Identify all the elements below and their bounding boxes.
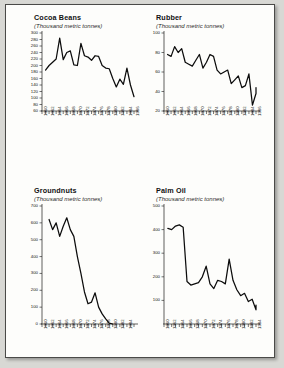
x-tick-label-cocoa-beans: 1974 bbox=[93, 106, 97, 116]
plot-area-groundnuts: 0100200300400500600700196019621964196619… bbox=[20, 206, 140, 328]
y-tick-label-cocoa-beans: 100 bbox=[20, 96, 38, 100]
x-tick-label-groundnuts: 1960 bbox=[44, 319, 48, 329]
x-tick-label-rubber: 1970 bbox=[201, 106, 205, 116]
x-tick-label-groundnuts: 1966 bbox=[65, 319, 69, 329]
data-series-cocoa-beans bbox=[46, 38, 134, 96]
y-tick-label-groundnuts: 100 bbox=[20, 305, 38, 309]
x-tick-label-groundnuts: 1962 bbox=[51, 319, 55, 329]
y-tick-label-rubber: 80 bbox=[142, 50, 160, 54]
x-tick-label-cocoa-beans: 1962 bbox=[51, 106, 55, 116]
y-tick-label-groundnuts: 200 bbox=[20, 288, 38, 292]
plot-area-palm-oil: 1002003004005001960196219641966196819701… bbox=[142, 206, 262, 328]
y-tick-label-groundnuts: 500 bbox=[20, 238, 38, 242]
y-tick-label-cocoa-beans: 300 bbox=[20, 31, 38, 35]
x-tick-label-rubber: 1966 bbox=[187, 106, 191, 116]
x-tick-label-rubber: 1960 bbox=[166, 106, 170, 116]
x-tick-label-palm-oil: 1974 bbox=[219, 319, 223, 329]
x-tick-label-cocoa-beans: 1960 bbox=[44, 106, 48, 116]
x-tick-label-palm-oil: 1964 bbox=[181, 319, 185, 329]
y-tick-label-cocoa-beans: 140 bbox=[20, 83, 38, 87]
y-tick-label-cocoa-beans: 80 bbox=[20, 102, 38, 106]
chart-canvas-rubber bbox=[142, 33, 262, 115]
x-tick-label-rubber: 1972 bbox=[208, 106, 212, 116]
x-tick-label-palm-oil: 1960 bbox=[166, 319, 170, 329]
chart-title-rubber: Rubber bbox=[156, 14, 264, 22]
x-tick-label-cocoa-beans: 1966 bbox=[65, 106, 69, 116]
x-tick-label-cocoa-beans: 1970 bbox=[79, 106, 83, 116]
y-tick-label-groundnuts: 400 bbox=[20, 254, 38, 258]
chart-panel-cocoa-beans: Cocoa Beans (Thousand metric tonnes) 608… bbox=[34, 14, 142, 162]
y-tick-label-palm-oil: 500 bbox=[142, 204, 160, 208]
x-tick-label-palm-oil: 1978 bbox=[235, 319, 239, 329]
x-tick-label-groundnuts: 1968 bbox=[72, 319, 76, 329]
y-tick-label-cocoa-beans: 260 bbox=[20, 44, 38, 48]
chart-canvas-palm-oil bbox=[142, 206, 262, 328]
x-tick-label-cocoa-beans: 1978 bbox=[107, 106, 111, 116]
y-tick-label-cocoa-beans: 280 bbox=[20, 37, 38, 41]
y-tick-label-cocoa-beans: 120 bbox=[20, 89, 38, 93]
x-tick-label-cocoa-beans: 1976 bbox=[100, 106, 104, 116]
x-tick-label-rubber: 1976 bbox=[222, 106, 226, 116]
x-tick-label-rubber: 1982 bbox=[243, 106, 247, 116]
x-tick-label-cocoa-beans: 1984 bbox=[129, 106, 133, 116]
x-tick-label-groundnuts: 1964 bbox=[58, 319, 62, 329]
chart-panel-palm-oil: Palm Oil (Thousand metric tonnes) 100200… bbox=[156, 187, 264, 352]
y-tick-label-groundnuts: 700 bbox=[20, 204, 38, 208]
x-tick-label-rubber: 1978 bbox=[229, 106, 233, 116]
x-tick-label-palm-oil: 1966 bbox=[189, 319, 193, 329]
x-tick-label-rubber: 1964 bbox=[180, 106, 184, 116]
x-tick-label-cocoa-beans: 1986 bbox=[136, 106, 140, 116]
chart-panel-rubber: Rubber (Thousand metric tonnes) 20406080… bbox=[156, 14, 264, 162]
y-tick-label-groundnuts: 300 bbox=[20, 271, 38, 275]
x-tick-label-rubber: 1974 bbox=[215, 106, 219, 116]
y-tick-label-cocoa-beans: 220 bbox=[20, 57, 38, 61]
chart-canvas-groundnuts bbox=[20, 206, 140, 328]
x-tick-label-groundnuts: 1982 bbox=[121, 319, 125, 329]
chart-canvas-cocoa-beans bbox=[20, 33, 140, 115]
y-tick-label-cocoa-beans: 60 bbox=[20, 109, 38, 113]
chart-title-cocoa-beans: Cocoa Beans bbox=[34, 14, 142, 22]
x-tick-label-rubber: 1986 bbox=[258, 106, 262, 116]
chart-subtitle-groundnuts: (Thousand metric tonnes) bbox=[34, 196, 142, 203]
y-tick-label-cocoa-beans: 200 bbox=[20, 63, 38, 67]
y-tick-label-rubber: 20 bbox=[142, 109, 160, 113]
x-tick-label-palm-oil: 1968 bbox=[196, 319, 200, 329]
x-tick-label-groundnuts: 1980 bbox=[114, 319, 118, 329]
chart-subtitle-rubber: (Thousand metric tonnes) bbox=[156, 23, 264, 30]
y-tick-label-cocoa-beans: 240 bbox=[20, 50, 38, 54]
plot-area-rubber: 2040608010019601962196419661968197019721… bbox=[142, 33, 262, 115]
y-tick-label-rubber: 100 bbox=[142, 31, 160, 35]
x-tick-label-cocoa-beans: 1982 bbox=[121, 106, 125, 116]
x-tick-label-cocoa-beans: 1972 bbox=[86, 106, 90, 116]
y-tick-label-cocoa-beans: 160 bbox=[20, 76, 38, 80]
y-tick-label-palm-oil: 200 bbox=[142, 275, 160, 279]
chart-subtitle-palm-oil: (Thousand metric tonnes) bbox=[156, 196, 264, 203]
x-tick-label-cocoa-beans: 1968 bbox=[72, 106, 76, 116]
x-tick-label-palm-oil: 1976 bbox=[227, 319, 231, 329]
y-tick-label-palm-oil: 400 bbox=[142, 227, 160, 231]
x-tick-label-rubber: 1962 bbox=[173, 106, 177, 116]
x-tick-label-groundnuts: 1974 bbox=[93, 319, 97, 329]
y-tick-label-groundnuts: 0 bbox=[20, 322, 38, 326]
chart-title-groundnuts: Groundnuts bbox=[34, 187, 142, 195]
x-tick-label-rubber: 1968 bbox=[194, 106, 198, 116]
y-tick-label-cocoa-beans: 180 bbox=[20, 70, 38, 74]
figure-page: Cocoa Beans (Thousand metric tonnes) 608… bbox=[5, 4, 275, 358]
y-tick-label-groundnuts: 600 bbox=[20, 221, 38, 225]
x-tick-label-groundnuts: 1976 bbox=[100, 319, 104, 329]
x-tick-label-palm-oil: 1982 bbox=[250, 319, 254, 329]
x-tick-label-palm-oil: 1972 bbox=[212, 319, 216, 329]
plot-area-cocoa-beans: 6080100120140160180200220240260280300196… bbox=[20, 33, 140, 115]
x-tick-label-cocoa-beans: 1980 bbox=[114, 106, 118, 116]
data-series-groundnuts bbox=[49, 218, 113, 324]
y-tick-label-rubber: 60 bbox=[142, 70, 160, 74]
y-tick-label-palm-oil: 100 bbox=[142, 298, 160, 302]
x-tick-label-palm-oil: 1980 bbox=[242, 319, 246, 329]
x-tick-label-palm-oil: 1984 bbox=[258, 319, 262, 329]
chart-panel-groundnuts: Groundnuts (Thousand metric tonnes) 0100… bbox=[34, 187, 142, 352]
x-tick-label-rubber: 1980 bbox=[236, 106, 240, 116]
x-tick-label-cocoa-beans: 1964 bbox=[58, 106, 62, 116]
chart-title-palm-oil: Palm Oil bbox=[156, 187, 264, 195]
chart-subtitle-cocoa-beans: (Thousand metric tonnes) bbox=[34, 23, 142, 30]
y-tick-label-palm-oil: 300 bbox=[142, 251, 160, 255]
